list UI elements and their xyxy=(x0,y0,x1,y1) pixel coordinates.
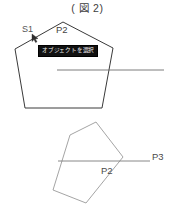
arrow-cursor-icon xyxy=(32,34,38,43)
label-p3: P3 xyxy=(152,152,164,162)
label-p2-bottom: P2 xyxy=(101,166,113,176)
figure-title: ( 図 2) xyxy=(0,3,175,14)
label-s1: S1 xyxy=(22,25,33,34)
pentagon-bottom-outline[interactable] xyxy=(53,122,123,203)
figure-canvas: ( 図 2) S1 P2 オブジェクトを選択 P2 P3 xyxy=(0,0,175,217)
select-object-tooltip: オブジェクトを選択 xyxy=(38,45,98,57)
label-p2-top: P2 xyxy=(56,25,68,35)
